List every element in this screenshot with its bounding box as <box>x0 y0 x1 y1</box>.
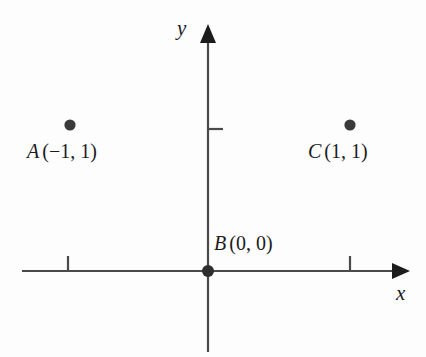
point-coords-a: (−1, 1) <box>42 140 97 162</box>
plot-canvas <box>0 0 426 357</box>
point-letter-c: C <box>308 140 324 162</box>
point-label-c: C(1, 1) <box>308 141 368 161</box>
point-coords-c: (1, 1) <box>324 140 367 162</box>
x-axis-arrowhead <box>392 263 410 279</box>
data-point-a <box>64 119 75 130</box>
coordinate-plane-figure: y x A(−1, 1) B(0, 0) C(1, 1) <box>0 0 426 357</box>
y-axis-label: y <box>177 18 186 39</box>
data-point-b-origin <box>202 265 214 277</box>
point-label-a: A(−1, 1) <box>27 141 97 161</box>
x-axis-label: x <box>396 283 405 304</box>
point-coords-b: (0, 0) <box>229 232 272 254</box>
data-point-c <box>344 119 355 130</box>
y-axis-arrowhead <box>200 24 216 43</box>
point-label-b: B(0, 0) <box>214 233 273 253</box>
point-letter-b: B <box>214 232 229 254</box>
point-letter-a: A <box>27 140 42 162</box>
